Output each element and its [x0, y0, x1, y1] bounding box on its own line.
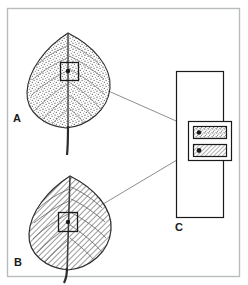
panel-a	[27, 33, 110, 155]
panel-label-b: B	[14, 257, 22, 268]
figure-root: A B C	[0, 0, 248, 285]
panel-c	[177, 72, 232, 218]
sample-dot-stipple	[197, 130, 201, 134]
figure-canvas	[0, 0, 248, 285]
leaf-a-petiole	[67, 126, 68, 155]
marker-dot-b	[66, 220, 70, 224]
marker-dot-a	[66, 69, 70, 73]
panel-label-c: C	[175, 222, 183, 233]
sample-dot-hatch	[197, 148, 202, 153]
panel-b	[29, 176, 111, 283]
panel-label-a: A	[13, 113, 21, 124]
